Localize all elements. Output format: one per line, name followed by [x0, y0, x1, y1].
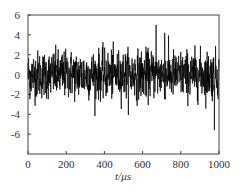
y-tick-label: -4: [11, 108, 21, 120]
y-tick-label: 6: [15, 9, 21, 21]
noise-signal-chart: 6420-2-4-6 02004006008001000 t/μs: [0, 0, 241, 193]
x-tick-label: 800: [173, 158, 190, 170]
y-tick-label: 4: [15, 29, 21, 41]
y-tick-label: -2: [11, 88, 20, 100]
x-tick-label: 400: [96, 158, 113, 170]
x-tick-label: 1000: [208, 158, 231, 170]
y-tick-label: -6: [11, 128, 21, 140]
signal-line: [28, 25, 219, 130]
x-tick-label: 0: [25, 158, 31, 170]
y-tick-labels: 6420-2-4-6: [11, 9, 21, 140]
x-axis-label: t/μs: [115, 170, 131, 182]
y-tick-label: 2: [15, 49, 21, 61]
x-tick-label: 200: [58, 158, 75, 170]
x-tick-labels: 02004006008001000: [25, 158, 230, 170]
y-tick-label: 0: [15, 69, 21, 81]
x-tick-label: 600: [134, 158, 151, 170]
